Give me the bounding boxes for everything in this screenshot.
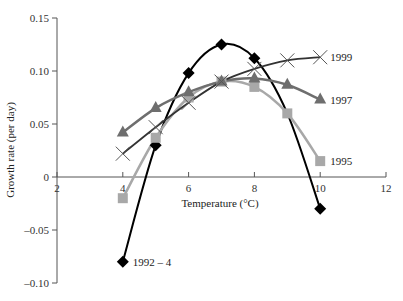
series-label: 1997 [330, 94, 353, 106]
y-tick-label: 0.10 [30, 65, 50, 77]
x-tick-label: 8 [252, 182, 258, 194]
x-tick-label: 10 [315, 182, 327, 194]
square-marker [315, 156, 325, 166]
y-tick-label: –0.05 [23, 224, 49, 236]
y-tick-label: 0.15 [30, 12, 50, 24]
chart-canvas: 0.150.100.050–0.05–0.1024681012 1992 – 4… [0, 0, 403, 301]
y-tick-label: –0.10 [23, 277, 49, 289]
diamond-marker [314, 203, 326, 215]
x-tick-label: 12 [381, 182, 392, 194]
square-marker [249, 82, 259, 92]
x-tick-label: 6 [186, 182, 192, 194]
y-axis-label: Growth rate (per day) [4, 102, 17, 198]
series-label: 1995 [330, 155, 353, 167]
x-marker [149, 120, 163, 134]
square-marker [118, 193, 128, 203]
x-marker [116, 147, 130, 161]
square-marker [151, 133, 161, 143]
x-axis-label: Temperature (°C) [181, 197, 259, 210]
y-tick-label: 0.05 [30, 118, 50, 130]
diamond-marker [216, 39, 228, 51]
diamond-marker [183, 67, 195, 79]
triangle-marker [117, 125, 129, 136]
diamond-marker [117, 256, 129, 268]
series-label: 1992 – 4 [133, 256, 172, 268]
series-label: 1999 [330, 51, 353, 63]
square-marker [282, 108, 292, 118]
growth-rate-chart: 0.150.100.050–0.05–0.1024681012 1992 – 4… [0, 0, 403, 301]
y-tick-label: 0 [44, 171, 50, 183]
x-tick-label: 2 [54, 182, 60, 194]
